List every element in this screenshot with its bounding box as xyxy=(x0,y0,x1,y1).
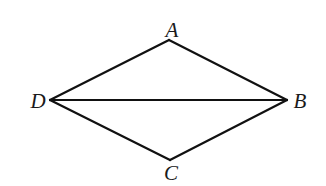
vertex-label-c: C xyxy=(164,161,179,185)
vertex-label-b: B xyxy=(294,89,307,113)
rhombus-diagram: A B C D xyxy=(0,0,326,186)
edge-ab xyxy=(169,40,287,100)
vertex-label-a: A xyxy=(164,18,179,42)
edge-bc xyxy=(170,100,287,160)
edge-da xyxy=(50,40,169,100)
edge-cd xyxy=(50,100,170,160)
vertex-label-d: D xyxy=(29,89,45,113)
